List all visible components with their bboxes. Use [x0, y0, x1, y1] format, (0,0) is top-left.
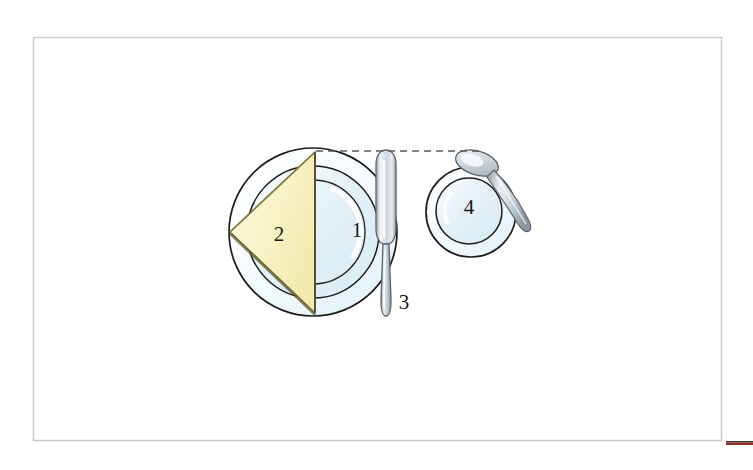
accent-bar-body [726, 442, 753, 445]
label-plate-number: 1 [352, 218, 363, 242]
knife-handle-highlight [384, 250, 385, 308]
knife-handle [381, 244, 391, 316]
knife-blade [376, 150, 396, 244]
bottom-right-accent-bar [726, 441, 753, 445]
place-setting-illustration: 1 2 3 4 [0, 0, 753, 470]
label-napkin-number: 2 [274, 222, 285, 246]
accent-bar-top-edge [726, 441, 753, 442]
knife-group [376, 150, 396, 316]
label-knife-number: 3 [399, 290, 410, 314]
figure-canvas: 1 2 3 4 [0, 0, 753, 470]
label-saucer-number: 4 [464, 195, 475, 219]
